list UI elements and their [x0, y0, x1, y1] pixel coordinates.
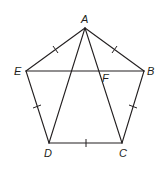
vertex-label-B: B [147, 65, 154, 77]
vertex-label-C: C [119, 147, 127, 159]
vertex-label-D: D [44, 147, 52, 159]
pentagon-diagram: A B C D E F [0, 0, 162, 170]
tick-mark-EA [53, 46, 58, 53]
side-DE [26, 71, 49, 143]
diagonal-AD [49, 28, 85, 143]
vertex-label-A: A [80, 13, 88, 25]
point-label-F: F [102, 72, 110, 84]
vertex-label-E: E [14, 65, 22, 77]
diagonal-AC [85, 28, 122, 143]
tick-mark-AB [112, 46, 117, 53]
